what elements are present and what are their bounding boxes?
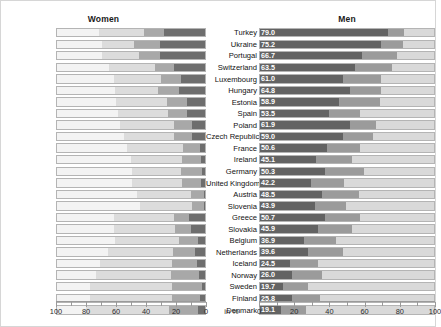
value-label-men: 45.1 (261, 155, 275, 164)
country-label: Ireland (206, 154, 257, 165)
bar-segment (181, 168, 202, 175)
bar-women (56, 305, 206, 314)
bar-women (56, 224, 206, 233)
bar-segment (325, 168, 364, 175)
bar-segment (174, 133, 192, 140)
country-label: Estonia (206, 97, 257, 108)
bar-segment (201, 156, 205, 163)
chart-row: 39.3Slovakia45.9 (1, 223, 437, 235)
bar-segment (198, 237, 206, 244)
chart-row: 60.5Luxembourg61.0 (1, 73, 437, 85)
bar-segment (191, 191, 204, 198)
bar-men (259, 86, 435, 95)
bar-men (259, 143, 435, 152)
value-label-men: 42.2 (261, 178, 275, 187)
bar-segment (174, 64, 205, 71)
country-label: Ukraine (206, 39, 257, 50)
bar-segment (191, 225, 205, 232)
bar-segment (102, 41, 134, 48)
bar-segment (144, 29, 164, 36)
chart-row: 27.2Norway26.0 (1, 269, 437, 281)
bar-segment (204, 191, 206, 198)
chart-row: 23.2Finland25.8 (1, 293, 437, 305)
bar-segment (381, 41, 402, 48)
bar-men (259, 282, 435, 291)
bar-segment (308, 283, 435, 290)
bar-segment (158, 87, 178, 94)
bar-segment (172, 283, 202, 290)
bar-segment (172, 295, 199, 302)
country-label: Slovenia (206, 201, 257, 212)
bar-segment (109, 64, 155, 71)
chart-row: 60.3Hungary64.8 (1, 85, 437, 97)
country-label: Hungary (206, 85, 257, 96)
bar-segment (360, 214, 435, 221)
bar-women (56, 97, 206, 106)
bar-segment (381, 87, 435, 94)
bar-men (259, 155, 435, 164)
bar-women (56, 143, 206, 152)
bar-women (56, 236, 206, 245)
bar-segment (202, 283, 205, 290)
bar-segment (200, 144, 205, 151)
bar-segment (352, 156, 435, 163)
bar-segment (360, 144, 435, 151)
bar-men (259, 178, 435, 187)
bar-segment (114, 75, 161, 82)
bar-segment (168, 110, 187, 117)
bar-segment (318, 225, 351, 232)
bar-segment (201, 179, 205, 186)
column-header-men: Men (259, 14, 435, 24)
chart-row: 69.0Ukraine75.2 (1, 39, 437, 51)
bar-segment (360, 110, 435, 117)
bar-segment (362, 52, 397, 59)
value-label-men: 24.5 (261, 259, 275, 268)
bar-segment (388, 29, 404, 36)
bar-segment (173, 248, 195, 255)
chart-row: 48.7Germany50.3 (1, 166, 437, 178)
bar-segment (380, 98, 435, 105)
bar-segment (102, 52, 139, 59)
bar-segment (114, 225, 176, 232)
bar-segment (343, 75, 382, 82)
bar-segment (339, 98, 379, 105)
chart-row: 39.5Greece50.7 (1, 212, 437, 224)
bar-men (259, 213, 435, 222)
bar-women (56, 259, 206, 268)
bar-segment (320, 295, 435, 302)
bar-men (259, 74, 435, 83)
value-label-men: 58.9 (261, 97, 275, 106)
bar-women (56, 201, 206, 210)
bar-men (259, 40, 435, 49)
bar-women (56, 86, 206, 95)
chart-row: 30.1Iceland24.5 (1, 258, 437, 270)
bar-segment (96, 271, 171, 278)
bar-segment (322, 191, 359, 198)
bar-segment (364, 168, 435, 175)
bar-men (259, 63, 435, 72)
chart-row: 35.4Netherlands39.6 (1, 246, 437, 258)
chart-row: 70.8Turkey79.0 (1, 27, 437, 39)
bar-segment (329, 110, 361, 117)
country-label: United Kingdom (206, 178, 257, 189)
bar-segment (160, 52, 205, 59)
bar-segment (99, 29, 144, 36)
bar-segment (197, 260, 205, 267)
value-label-men: 19.7 (261, 282, 275, 291)
bar-men (259, 120, 435, 129)
country-label: Belgium (206, 235, 257, 246)
bar-segment (114, 214, 174, 221)
bar-women (56, 213, 206, 222)
bar-segment (155, 64, 174, 71)
bar-segment (116, 98, 167, 105)
bar-segment (192, 121, 205, 128)
country-label: Poland (206, 120, 257, 131)
bar-women (56, 247, 206, 256)
bar-segment (172, 260, 197, 267)
bar-men (259, 190, 435, 199)
chart-row: 63.7Switzerland63.5 (1, 62, 437, 74)
bar-women (56, 120, 206, 129)
bar-men (259, 236, 435, 245)
chart-row: 38.2Belgium36.9 (1, 235, 437, 247)
bar-segment (189, 214, 205, 221)
